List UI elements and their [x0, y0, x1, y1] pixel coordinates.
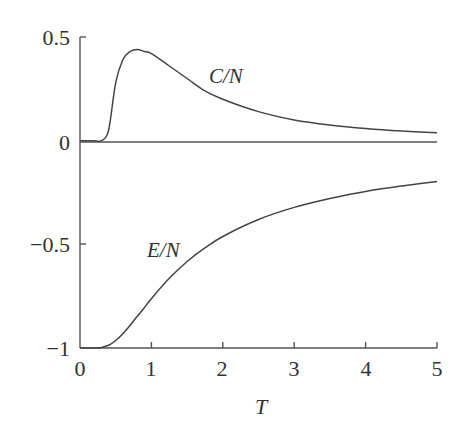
x-tick-label: 2 [217, 356, 228, 381]
x-tick-label: 0 [75, 356, 86, 381]
e-series-label: E/N [146, 238, 181, 262]
y-tick-label: 0 [59, 130, 70, 155]
y-tick-label: −0.5 [30, 232, 70, 257]
y-tick-label: 0.5 [43, 25, 71, 50]
x-tick-label: 5 [432, 356, 443, 381]
y-tick-label: −1 [47, 336, 70, 361]
x-tick-label: 1 [146, 356, 157, 381]
heat-capacity-curve [80, 49, 437, 141]
c-series-label: C/N [209, 64, 244, 88]
x-tick-label: 3 [289, 356, 300, 381]
energy-curve [80, 182, 437, 349]
x-tick-label: 4 [361, 356, 372, 381]
chart: 0.5 0 −0.5 −1 0 1 2 3 4 5 C/N E/N T [0, 0, 468, 435]
x-ticks [151, 342, 437, 348]
x-axis-title: T [255, 394, 269, 419]
